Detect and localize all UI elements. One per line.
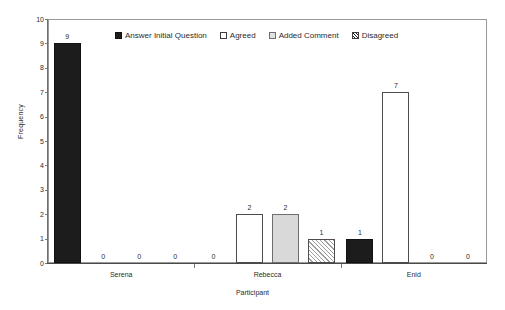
- y-tick-label: 7: [22, 89, 44, 96]
- legend-swatch-icon: [269, 32, 276, 39]
- x-category-label: Serena: [48, 271, 194, 279]
- legend-item[interactable]: Added Comment: [269, 31, 339, 40]
- x-category-separator: [194, 264, 195, 268]
- legend-label: Added Comment: [279, 31, 339, 40]
- bar-chart: Frequency 012345678910 900002211700 Answ…: [0, 0, 505, 310]
- y-tick-label: 5: [22, 138, 44, 145]
- legend-label: Answer Initial Question: [125, 31, 207, 40]
- y-tick-label: 9: [22, 40, 44, 47]
- y-tick-label: 3: [22, 186, 44, 193]
- y-tick-label: 6: [22, 113, 44, 120]
- chart-legend: Answer Initial QuestionAgreedAdded Comme…: [115, 31, 398, 40]
- legend-swatch-icon: [220, 32, 227, 39]
- y-tick-label: 2: [22, 211, 44, 218]
- legend-swatch-icon: [352, 32, 359, 39]
- legend-item[interactable]: Answer Initial Question: [115, 31, 207, 40]
- x-category-label: Enid: [341, 271, 487, 279]
- legend-label: Disagreed: [362, 31, 398, 40]
- plot-area: [48, 19, 487, 263]
- legend-swatch-icon: [115, 32, 122, 39]
- y-axis-line: [47, 19, 48, 264]
- y-tick-label: 10: [22, 16, 44, 23]
- x-axis-title: Participant: [0, 289, 505, 296]
- legend-label: Agreed: [230, 31, 256, 40]
- x-category-label: Rebecca: [194, 271, 340, 279]
- y-axis-title: Frequency: [17, 72, 24, 172]
- x-axis-line: [47, 263, 487, 264]
- legend-item[interactable]: Agreed: [220, 31, 256, 40]
- y-tick-label: 8: [22, 64, 44, 71]
- y-tick-label: 1: [22, 235, 44, 242]
- legend-item[interactable]: Disagreed: [352, 31, 398, 40]
- y-tick-label: 0: [22, 260, 44, 267]
- y-tick-label: 4: [22, 162, 44, 169]
- x-category-separator: [341, 264, 342, 268]
